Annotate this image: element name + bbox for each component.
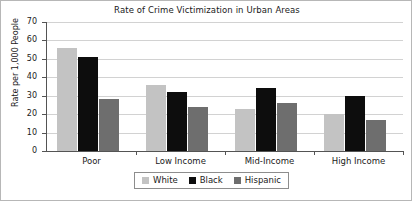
legend-label: Hispanic: [245, 175, 281, 185]
bar-hispanic-mid-income: [277, 103, 297, 151]
bar-white-poor: [57, 48, 77, 151]
legend-label: Black: [200, 175, 223, 185]
chart-legend: WhiteBlackHispanic: [134, 172, 289, 189]
bar-black-poor: [78, 57, 98, 151]
y-tick-label: 20: [7, 110, 37, 118]
legend-swatch-hispanic: [234, 177, 241, 184]
y-tick-label: 70: [7, 18, 37, 26]
bar-group: [57, 22, 119, 151]
bar-group: [146, 22, 208, 151]
bar-hispanic-low-income: [188, 107, 208, 151]
chart-title: Rate of Crime Victimization in Urban Are…: [1, 5, 412, 15]
bar-group: [235, 22, 297, 151]
x-axis-label-high-income: High Income: [314, 156, 404, 166]
bar-hispanic-high-income: [366, 120, 386, 151]
y-tick-label: 0: [7, 147, 37, 155]
legend-label: White: [153, 175, 178, 185]
bar-white-mid-income: [235, 109, 255, 151]
x-tick-mark: [225, 151, 226, 155]
x-axis-label-poor: Poor: [47, 156, 137, 166]
y-tick-label: 40: [7, 73, 37, 81]
x-tick-mark: [136, 151, 137, 155]
chart-figure: Rate of Crime Victimization in Urban Are…: [0, 0, 412, 201]
legend-swatch-white: [142, 177, 149, 184]
y-tick-label: 60: [7, 36, 37, 44]
bar-black-low-income: [167, 92, 187, 151]
legend-item-black[interactable]: Black: [189, 175, 223, 185]
bar-white-high-income: [324, 114, 344, 151]
y-tick-mark: [42, 114, 46, 115]
x-tick-mark: [314, 151, 315, 155]
legend-item-white[interactable]: White: [142, 175, 178, 185]
bar-white-low-income: [146, 85, 166, 151]
plot-area: [47, 22, 403, 151]
y-tick-label: 30: [7, 92, 37, 100]
bar-group: [324, 22, 386, 151]
y-tick-mark: [42, 77, 46, 78]
y-tick-label: 50: [7, 55, 37, 63]
y-tick-mark: [42, 59, 46, 60]
y-tick-mark: [42, 133, 46, 134]
bar-black-mid-income: [256, 88, 276, 151]
y-tick-mark: [42, 151, 46, 152]
x-axis-label-mid-income: Mid-Income: [225, 156, 315, 166]
x-axis-label-low-income: Low Income: [136, 156, 226, 166]
legend-swatch-black: [189, 177, 196, 184]
bar-black-high-income: [345, 96, 365, 151]
legend-item-hispanic[interactable]: Hispanic: [234, 175, 281, 185]
y-tick-label: 10: [7, 129, 37, 137]
y-tick-mark: [42, 96, 46, 97]
bar-hispanic-poor: [99, 99, 119, 151]
y-tick-mark: [42, 40, 46, 41]
x-tick-mark: [403, 151, 404, 155]
y-tick-mark: [42, 22, 46, 23]
